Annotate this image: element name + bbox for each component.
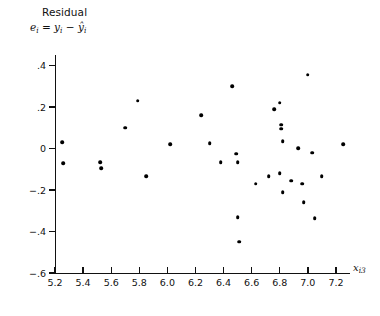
y-tick-label: −.6 [29, 268, 46, 279]
x-tick-mark [139, 267, 140, 274]
x-tick-label: 6.8 [272, 277, 287, 288]
data-point [219, 160, 223, 164]
data-point [320, 175, 324, 179]
y-tick-label: −.2 [29, 184, 46, 195]
data-point [236, 215, 240, 219]
data-point [267, 175, 271, 179]
x-tick-label: 5.8 [132, 277, 147, 288]
data-point [60, 140, 64, 144]
y-tick-mark [49, 65, 56, 66]
x-tick-mark [251, 267, 252, 274]
x-tick-mark [223, 267, 224, 274]
x-tick-label: 6.4 [216, 277, 231, 288]
plot-title-block: Residual ei = yi − ŷi [30, 6, 87, 36]
y-tick-mark [49, 106, 56, 107]
y-axis-line [55, 55, 56, 274]
residual-formula: ei = yi − ŷi [30, 21, 87, 35]
y-tick-label: .4 [37, 60, 46, 71]
data-point [302, 201, 306, 205]
data-point [62, 161, 66, 165]
data-point [100, 166, 104, 170]
data-point [230, 84, 234, 88]
data-point [145, 175, 149, 179]
x-tick-label: 5.2 [47, 277, 62, 288]
data-point [136, 99, 140, 103]
x-tick-mark [82, 267, 83, 274]
data-point [289, 179, 293, 183]
x-tick-mark [111, 267, 112, 274]
x-tick-mark [54, 267, 55, 274]
y-tick-label: 0 [40, 143, 46, 154]
x-tick-mark [279, 267, 280, 274]
data-point [237, 240, 241, 244]
x-tick-label: 6.0 [160, 277, 175, 288]
data-point [341, 142, 345, 146]
data-point [199, 113, 203, 117]
data-point [168, 142, 172, 146]
x-tick-label: 5.4 [76, 277, 91, 288]
y-tick-mark [49, 189, 56, 190]
data-point [279, 127, 283, 131]
data-point [306, 73, 310, 77]
data-point [278, 101, 282, 105]
data-point [278, 172, 282, 176]
x-tick-mark [167, 267, 168, 274]
data-point [279, 123, 283, 127]
x-tick-mark [307, 267, 308, 274]
data-point [310, 151, 314, 155]
data-point [234, 152, 238, 156]
x-tick-label: 5.6 [104, 277, 119, 288]
page-title: Residual [42, 6, 87, 19]
x-tick-mark [195, 267, 196, 274]
y-tick-label: −.4 [29, 226, 46, 237]
x-axis-line [55, 273, 350, 274]
data-point [281, 190, 285, 194]
x-tick-label: 6.2 [188, 277, 203, 288]
data-point [296, 147, 300, 151]
data-point [254, 182, 258, 186]
data-point [98, 160, 102, 164]
residual-scatter-plot: Residual ei = yi − ŷi .4.20−.2−.4−.6 5.2… [0, 0, 380, 316]
y-tick-mark [49, 231, 56, 232]
x-tick-label: 7.0 [300, 277, 315, 288]
y-tick-label: .2 [37, 101, 46, 112]
x-tick-mark [335, 267, 336, 274]
data-point [300, 182, 304, 186]
y-tick-mark [49, 148, 56, 149]
x-tick-label: 6.6 [244, 277, 259, 288]
x-tick-label: 7.2 [328, 277, 343, 288]
data-point [272, 107, 276, 111]
data-point [123, 126, 127, 130]
data-point [236, 160, 240, 164]
data-point [313, 216, 317, 220]
x-axis-label: xi3 [353, 262, 366, 275]
data-point [281, 139, 285, 143]
data-point [208, 141, 212, 145]
